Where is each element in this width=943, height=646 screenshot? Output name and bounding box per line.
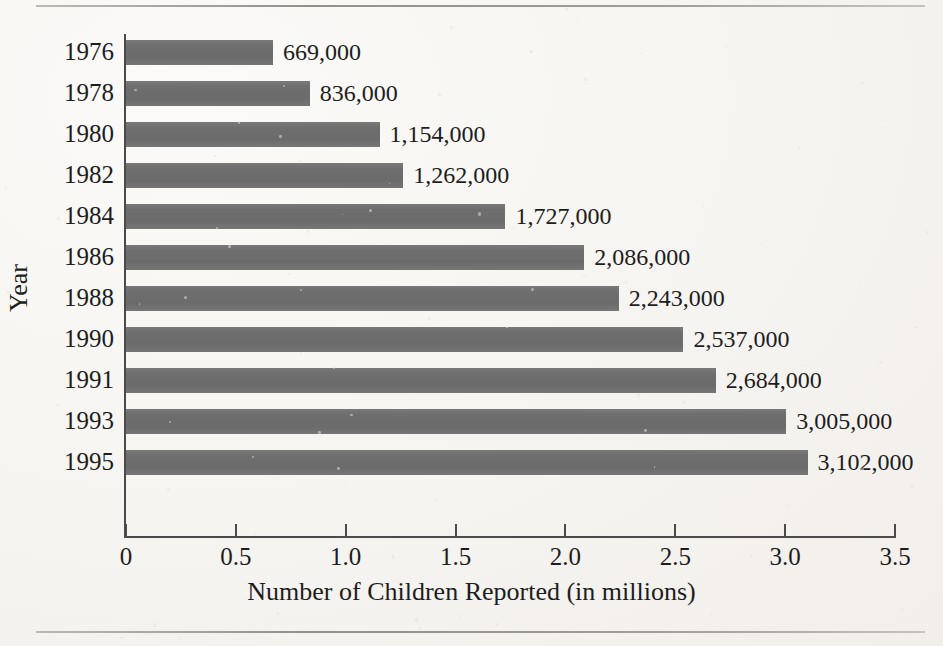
- paper-grain-speck: [584, 78, 587, 81]
- bar-chart: 00.51.01.52.02.53.03.5 1976669,000197883…: [0, 0, 943, 646]
- paper-grain-speck: [179, 638, 181, 640]
- paper-grain-speck: [7, 291, 10, 294]
- paper-grain-speck: [910, 485, 913, 488]
- bar-row: 19862,086,000: [0, 237, 943, 278]
- category-label-1993: 1993: [4, 406, 114, 436]
- paper-grain-speck: [622, 353, 623, 354]
- bar-1990: [126, 327, 683, 352]
- paper-grain-speck: [318, 431, 321, 434]
- paper-grain-speck: [652, 300, 654, 302]
- paper-grain-speck: [167, 488, 170, 491]
- x-axis-title: Number of Children Reported (in millions…: [0, 576, 943, 608]
- paper-grain-speck: [644, 429, 647, 432]
- bar-value-label-1976: 669,000: [283, 38, 361, 67]
- bar-row: 1976669,000: [0, 32, 943, 73]
- paper-grain-speck: [683, 401, 686, 404]
- bar-1991: [126, 368, 716, 393]
- x-tick-label-2.0: 2.0: [525, 542, 605, 572]
- x-tick-label-3.5: 3.5: [855, 542, 935, 572]
- paper-grain-speck: [915, 326, 917, 328]
- paper-grain-speck: [279, 135, 282, 138]
- x-tick-3.0: [784, 524, 786, 536]
- paper-grain-speck: [788, 505, 790, 507]
- bar-value-label-1984: 1,727,000: [515, 202, 611, 231]
- bar-1982: [126, 163, 403, 188]
- bar-1993: [126, 409, 786, 434]
- paper-grain-speck: [369, 209, 372, 212]
- paper-grain-speck: [415, 618, 418, 621]
- paper-grain-speck: [87, 416, 89, 418]
- paper-grain-speck: [513, 227, 515, 229]
- bar-1976: [126, 40, 273, 65]
- bar-1988: [126, 286, 619, 311]
- bar-row: 19821,262,000: [0, 155, 943, 196]
- paper-grain-speck: [879, 361, 882, 364]
- paper-grain-speck: [254, 533, 256, 535]
- category-label-1978: 1978: [4, 78, 114, 108]
- paper-grain-speck: [531, 288, 534, 291]
- x-tick-0.5: [235, 524, 237, 536]
- bar-row: 19933,005,000: [0, 401, 943, 442]
- paper-grain-speck: [134, 89, 136, 91]
- bar-row: 19912,684,000: [0, 360, 943, 401]
- bar-1984: [126, 204, 505, 229]
- paper-grain-speck: [637, 394, 640, 397]
- x-tick-label-0.5: 0.5: [196, 542, 276, 572]
- paper-grain-speck: [342, 214, 343, 215]
- bar-1978: [126, 81, 310, 106]
- paper-grain-speck: [333, 366, 336, 369]
- paper-grain-speck: [750, 555, 752, 557]
- y-axis-title: Year: [3, 243, 35, 333]
- bar-value-label-1993: 3,005,000: [796, 407, 892, 436]
- paper-grain-speck: [625, 281, 628, 284]
- category-label-1991: 1991: [4, 365, 114, 395]
- paper-grain-speck: [238, 121, 240, 123]
- bar-value-label-1988: 2,243,000: [629, 284, 725, 313]
- x-tick-label-0: 0: [86, 542, 166, 572]
- bar-value-label-1986: 2,086,000: [594, 243, 690, 272]
- bar-1986: [126, 245, 584, 270]
- x-tick-label-3.0: 3.0: [745, 542, 825, 572]
- bar-row: 19953,102,000: [0, 442, 943, 483]
- bar-1980: [126, 122, 380, 147]
- x-tick-3.5: [894, 524, 896, 536]
- category-label-1984: 1984: [4, 201, 114, 231]
- paper-grain-speck: [800, 365, 801, 366]
- bar-row: 19801,154,000: [0, 114, 943, 155]
- bar-row: 19902,537,000: [0, 319, 943, 360]
- category-label-1995: 1995: [4, 447, 114, 477]
- paper-grain-speck: [216, 227, 219, 230]
- x-tick-1.5: [455, 524, 457, 536]
- category-label-1980: 1980: [4, 119, 114, 149]
- paper-grain-speck: [299, 160, 301, 162]
- bar-value-label-1991: 2,684,000: [726, 366, 822, 395]
- paper-grain-speck: [759, 375, 762, 378]
- bar-value-label-1990: 2,537,000: [693, 325, 789, 354]
- bar-value-label-1978: 836,000: [320, 79, 398, 108]
- x-tick-0: [125, 524, 127, 536]
- x-tick-2.0: [564, 524, 566, 536]
- paper-grain-speck: [459, 615, 461, 617]
- paper-grain-speck: [859, 458, 862, 461]
- paper-grain-speck: [450, 26, 453, 29]
- paper-grain-speck: [57, 217, 59, 219]
- paper-grain-speck: [228, 245, 231, 248]
- paper-grain-speck: [392, 555, 395, 558]
- x-axis-line: [124, 536, 896, 538]
- category-label-1982: 1982: [4, 160, 114, 190]
- paper-grain-speck: [583, 276, 585, 278]
- figure-page: 00.51.01.52.02.53.03.5 1976669,000197883…: [0, 0, 943, 646]
- paper-grain-speck: [710, 614, 712, 616]
- paper-grain-speck: [496, 623, 499, 626]
- bar-1995: [126, 450, 808, 475]
- x-tick-label-1.5: 1.5: [416, 542, 496, 572]
- x-tick-label-1.0: 1.0: [306, 542, 386, 572]
- paper-grain-speck: [861, 468, 864, 471]
- paper-grain-speck: [345, 482, 347, 484]
- paper-grain-speck: [654, 466, 656, 468]
- x-tick-1.0: [345, 524, 347, 536]
- x-tick-label-2.5: 2.5: [635, 542, 715, 572]
- bar-value-label-1982: 1,262,000: [413, 161, 509, 190]
- bar-value-label-1980: 1,154,000: [390, 120, 486, 149]
- paper-grain-speck: [565, 8, 568, 11]
